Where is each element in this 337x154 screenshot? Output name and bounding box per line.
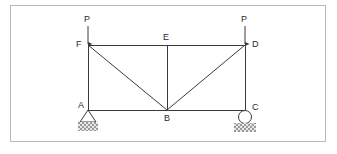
- joint-label-C: C: [252, 103, 259, 112]
- load-label-at-F: P: [84, 15, 90, 24]
- joint-label-F: F: [76, 40, 82, 49]
- joint-label-E: E: [163, 33, 169, 42]
- roller-support-ground-hatch: [234, 123, 256, 132]
- member-diagonal-B-D: [167, 45, 245, 110]
- pin-support-A: [78, 110, 98, 131]
- pin-support-ground-hatch: [78, 122, 98, 131]
- roller-support-C: [234, 111, 256, 133]
- joint-label-A: A: [78, 101, 84, 110]
- joint-label-B: B: [164, 114, 170, 123]
- figure-canvas: A B C D E F P P: [0, 0, 337, 154]
- pin-support-triangle: [80, 110, 96, 122]
- member-diagonal-F-B: [88, 45, 167, 110]
- roller-support-circle: [239, 111, 252, 124]
- joint-label-D: D: [252, 40, 259, 49]
- load-label-at-D: P: [241, 15, 247, 24]
- truss-diagram: [0, 0, 337, 154]
